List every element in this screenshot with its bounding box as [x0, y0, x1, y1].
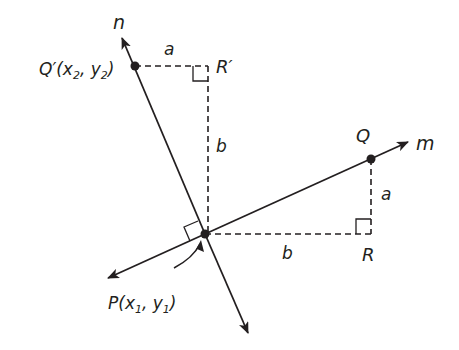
label-line-n: n [113, 11, 125, 33]
diagram-svg: n m Q R R′ a b a b Q′(x2, y2) P(x1, y1) [0, 0, 459, 350]
label-Q-prime-sub1: 2 [73, 69, 80, 82]
label-P-end: ) [168, 293, 177, 313]
label-b-vertical: b [216, 136, 227, 156]
label-P-main: P(x [108, 293, 136, 313]
point-P [201, 230, 210, 239]
label-Q-prime-sub2: 2 [101, 69, 108, 82]
label-b-bottom: b [282, 243, 293, 263]
pointer-arrow-P [174, 244, 200, 268]
label-P-mid: , y [142, 293, 164, 313]
label-line-m: m [416, 132, 435, 154]
point-Q-prime [131, 62, 140, 71]
label-Q-prime: Q′(x2, y2) [39, 59, 114, 82]
point-Q [367, 155, 376, 164]
label-R-prime: R′ [216, 56, 233, 77]
label-a-right: a [381, 184, 391, 204]
rotation-perpendicular-lines-diagram: n m Q R R′ a b a b Q′(x2, y2) P(x1, y1) [0, 0, 459, 350]
label-Q-prime-mid: , y [80, 59, 102, 79]
label-P-sub2: 1 [163, 303, 170, 316]
label-Q-prime-main: Q′(x [39, 59, 74, 79]
label-Q-prime-end: ) [106, 59, 115, 79]
right-angle-mark-R-prime [193, 66, 208, 81]
label-R: R [362, 244, 375, 265]
label-P: P(x1, y1) [108, 293, 176, 316]
label-Q: Q [356, 125, 370, 146]
label-a-top: a [164, 39, 174, 59]
right-angle-mark-R [356, 219, 371, 234]
line-n-bottom [205, 234, 248, 333]
label-P-sub1: 1 [135, 303, 142, 316]
line-m [205, 142, 408, 234]
